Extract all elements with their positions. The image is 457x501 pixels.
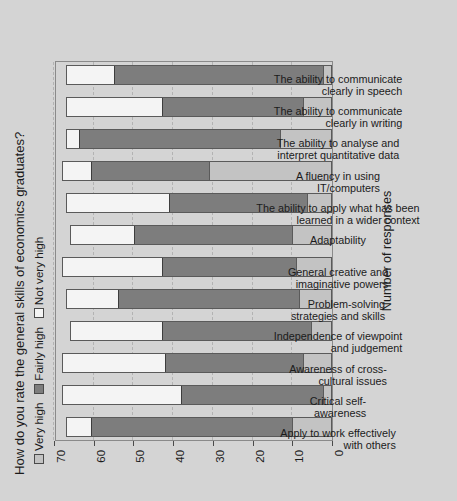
- chart-legend: Very high Fairly high Not very high: [32, 237, 45, 464]
- legend-swatch-very-high: [34, 454, 44, 464]
- bar-segment-5-1: [162, 258, 296, 276]
- bar-segment-5-2: [63, 258, 162, 276]
- rotated-chart-stage: How do you rate the general skills of ec…: [0, 0, 457, 501]
- legend-item-very-high: Very high: [32, 403, 45, 464]
- bar-segment-8-2: [63, 162, 91, 180]
- legend-label-very-high: Very high: [32, 403, 45, 451]
- bar-segment-11-2: [67, 66, 114, 84]
- category-label-9: The ability to analyse andinterpret quan…: [336, 128, 456, 148]
- category-label-0: Apply to work effectivelywith others: [336, 418, 456, 438]
- axis-tick: [173, 441, 174, 446]
- bar-segment-6-2: [71, 226, 134, 244]
- bar-segment-4-1: [118, 290, 299, 308]
- category-label-6: Adaptability: [336, 225, 456, 245]
- bar-8[interactable]: [62, 161, 332, 181]
- bar-6[interactable]: [70, 225, 332, 245]
- axis-tick: [213, 441, 214, 446]
- category-label-3: Independence of viewpointand judgement: [336, 321, 456, 341]
- category-label-7: The ability to apply what has beenlearne…: [336, 193, 456, 213]
- bar-segment-1-1: [181, 386, 323, 404]
- bar-segment-2-2: [63, 354, 165, 372]
- axis-tick: [94, 441, 95, 446]
- legend-swatch-fairly-high: [34, 384, 44, 394]
- bar-segment-6-1: [134, 226, 292, 244]
- category-label-4: Problem-solvingstrategies and skills: [336, 289, 456, 309]
- legend-label-not-very-high: Not very high: [32, 237, 45, 305]
- chart-canvas: How do you rate the general skills of ec…: [0, 0, 457, 501]
- category-label-5: General creative andimaginative powers: [336, 257, 456, 277]
- axis-tick: [54, 441, 55, 446]
- bar-segment-1-2: [63, 386, 181, 404]
- bar-segment-7-2: [67, 194, 169, 212]
- bar-segment-9-2: [67, 130, 79, 148]
- bar-segment-9-1: [79, 130, 280, 148]
- axis-tick: [253, 441, 254, 446]
- legend-item-not-very-high: Not very high: [32, 237, 45, 318]
- bar-segment-0-2: [67, 418, 91, 436]
- legend-swatch-not-very-high: [34, 308, 44, 318]
- category-label-11: The ability to communicateclearly in spe…: [336, 64, 456, 84]
- category-label-2: Awareness of cross-cultural issues: [336, 354, 456, 374]
- category-label-10: The ability to communicateclearly in wri…: [336, 96, 456, 116]
- bar-segment-2-1: [165, 354, 303, 372]
- category-label-8: A fluency in usingIT/computers: [336, 161, 456, 181]
- gridline: [53, 62, 54, 440]
- category-label-1: Critical self-awareness: [336, 386, 456, 406]
- legend-item-fairly-high: Fairly high: [32, 327, 45, 393]
- bar-segment-0-1: [91, 418, 292, 436]
- bar-1[interactable]: [62, 385, 332, 405]
- category-axis-labels: Apply to work effectivelywith othersCrit…: [336, 61, 456, 441]
- legend-label-fairly-high: Fairly high: [32, 327, 45, 380]
- axis-tick: [133, 441, 134, 446]
- bar-segment-4-2: [67, 290, 118, 308]
- chart-title: How do you rate the general skills of ec…: [12, 132, 27, 475]
- bar-segment-3-2: [71, 322, 162, 340]
- bar-segment-10-2: [67, 98, 162, 116]
- bar-segment-8-1: [91, 162, 209, 180]
